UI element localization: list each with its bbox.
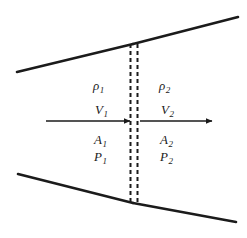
label-pressure-downstream-symbol: P <box>160 149 168 164</box>
label-area-downstream-subscript: 2 <box>168 139 173 149</box>
label-velocity-upstream-symbol: V <box>95 102 103 117</box>
label-density-upstream-symbol: ρ <box>93 78 99 93</box>
label-velocity-downstream: V2 <box>161 103 173 116</box>
label-pressure-downstream: P2 <box>160 150 172 163</box>
label-velocity-upstream: V1 <box>95 103 107 116</box>
duct-wall-top-left <box>17 44 133 72</box>
label-density-upstream: ρ1 <box>93 79 104 92</box>
label-density-downstream: ρ2 <box>159 79 170 92</box>
label-velocity-downstream-subscript: 2 <box>169 109 174 119</box>
duct-wall-bottom-right <box>133 203 236 222</box>
diagram-canvas <box>0 0 247 238</box>
duct-wall-bottom-left <box>18 174 133 203</box>
label-density-downstream-subscript: 2 <box>166 85 171 95</box>
label-area-upstream-symbol: A <box>94 132 102 147</box>
label-velocity-upstream-subscript: 1 <box>103 109 108 119</box>
label-area-upstream: A1 <box>94 133 106 146</box>
label-density-upstream-subscript: 1 <box>100 85 105 95</box>
label-area-downstream-symbol: A <box>160 132 168 147</box>
label-area-upstream-subscript: 1 <box>102 139 107 149</box>
duct-wall-top-right <box>133 17 238 44</box>
label-density-downstream-symbol: ρ <box>159 78 165 93</box>
label-pressure-upstream-symbol: P <box>94 149 102 164</box>
label-area-downstream: A2 <box>160 133 172 146</box>
flow-diagram: ρ1 V1 A1 P1 ρ2 V2 A2 P2 <box>0 0 247 238</box>
label-pressure-downstream-subscript: 2 <box>168 156 173 166</box>
label-pressure-upstream: P1 <box>94 150 106 163</box>
label-pressure-upstream-subscript: 1 <box>102 156 107 166</box>
label-velocity-downstream-symbol: V <box>161 102 169 117</box>
